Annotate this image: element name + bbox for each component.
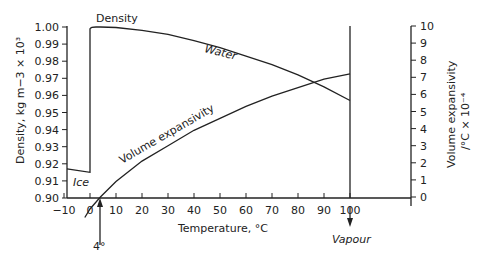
- four-degree-label: 4°: [93, 240, 106, 253]
- y-tick-label: 0.95: [35, 107, 60, 120]
- y2-tick-label: 6: [420, 88, 427, 101]
- x-tick-label: −10: [52, 204, 75, 217]
- expansivity-label: Volume expansivity: [117, 101, 217, 166]
- y-tick-label: 0.93: [35, 141, 60, 154]
- arrow-down-icon: [347, 218, 353, 227]
- density-expansivity-chart: −100102030405060708090100 1.000.990.980.…: [0, 0, 478, 265]
- y-tick-label: 0.91: [35, 175, 60, 188]
- y2-axis-title-line1: Volume expansivity: [445, 60, 458, 168]
- y2-tick-label: 8: [420, 54, 427, 67]
- x-tick-label: 20: [135, 204, 149, 217]
- x-tick-label: 90: [317, 204, 331, 217]
- y-tick-label: 0.97: [35, 72, 60, 85]
- y-tick-label: 0.92: [35, 158, 60, 171]
- y-tick-label: 0.98: [35, 55, 60, 68]
- x-tick-label: 60: [239, 204, 253, 217]
- x-tick-label: 30: [161, 204, 175, 217]
- water-density-line: [96, 27, 350, 101]
- x-tick-label: 80: [291, 204, 305, 217]
- y-tick-label: 1.00: [35, 21, 60, 34]
- x-axis-title: Temperature, °C: [177, 222, 268, 235]
- y-axis-title: Density, kg m−3 × 10³: [14, 37, 27, 164]
- y2-tick-label: 0: [420, 191, 427, 204]
- y2-tick-label: 1: [420, 174, 427, 187]
- y2-tick-label: 4: [420, 123, 427, 136]
- x-tick-label: 50: [213, 204, 227, 217]
- y2-tick-label: 9: [420, 37, 427, 50]
- ice-density-line: [67, 27, 96, 172]
- density-label: Density: [96, 12, 138, 25]
- x-tick-label: 40: [187, 204, 201, 217]
- volume-expansivity-line: [85, 74, 350, 218]
- ice-label: Ice: [73, 176, 89, 189]
- y2-axis-title-line2: /°C × 10⁻⁴: [459, 92, 472, 150]
- y2-tick-label: 7: [420, 71, 427, 84]
- x-tick-label: 70: [265, 204, 279, 217]
- y-tick-label: 0.99: [35, 38, 60, 51]
- y-tick-label: 0.94: [35, 124, 60, 137]
- water-label: Water: [203, 42, 239, 63]
- y-tick-label: 0.90: [35, 192, 60, 205]
- x-tick-label: 10: [109, 204, 123, 217]
- y2-tick-label: 5: [420, 106, 427, 119]
- vapour-label: Vapour: [332, 233, 372, 246]
- y2-tick-label: 3: [420, 140, 427, 153]
- y-tick-label: 0.96: [35, 89, 60, 102]
- y2-tick-label: 10: [420, 20, 434, 33]
- y2-tick-label: 2: [420, 157, 427, 170]
